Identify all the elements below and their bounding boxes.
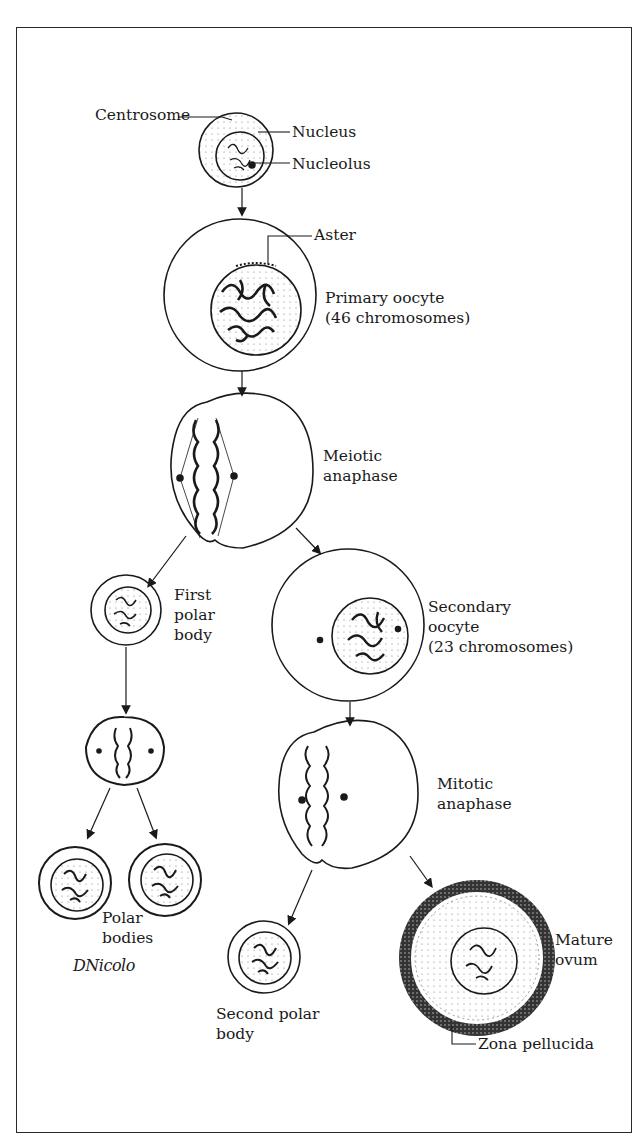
- label-second-polar-body: Second polar body: [216, 1004, 320, 1044]
- polar-body-right: [129, 844, 201, 916]
- polar-body-left: [39, 847, 111, 919]
- oogonium-cell: [199, 113, 273, 187]
- mitotic-anaphase-cell: [279, 720, 418, 868]
- label-mature-ovum: Mature ovum: [555, 930, 613, 970]
- first-polar-body-cell: [91, 575, 161, 645]
- label-mitotic-anaphase: Mitotic anaphase: [437, 774, 512, 814]
- label-primary-oocyte: Primary oocyte (46 chromosomes): [325, 288, 470, 328]
- secondary-oocyte-cell: [272, 549, 424, 701]
- label-centrosome: Centrosome: [95, 105, 190, 125]
- artist-signature: DNicolo: [73, 956, 135, 975]
- primary-oocyte-cell: [164, 219, 316, 371]
- label-nucleolus: Nucleolus: [292, 154, 371, 174]
- label-aster: Aster: [314, 225, 356, 245]
- mature-ovum-cell: [405, 886, 549, 1030]
- label-zona-pellucida: Zona pellucida: [478, 1034, 594, 1054]
- second-polar-body-cell: [228, 921, 300, 993]
- label-secondary-oocyte: Secondary oocyte (23 chromosomes): [428, 597, 573, 657]
- label-first-polar-body: First polar body: [174, 585, 215, 645]
- meiotic-anaphase-cell: [171, 393, 313, 548]
- dividing-polar-body-cell: [86, 717, 164, 785]
- label-polar-bodies: Polar bodies: [102, 908, 153, 948]
- label-nucleus: Nucleus: [292, 122, 356, 142]
- label-meiotic-anaphase: Meiotic anaphase: [323, 446, 398, 486]
